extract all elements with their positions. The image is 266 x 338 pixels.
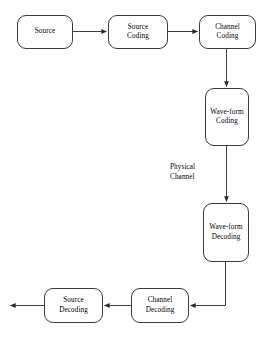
label-physical-channel: Physical Channel xyxy=(170,163,195,183)
node-waveform-decoding-line-2: Decoding xyxy=(212,233,241,242)
node-waveform-coding-line-2: Coding xyxy=(216,117,238,126)
node-source-line-1: Source xyxy=(35,27,56,36)
node-source-coding[interactable]: Source Coding xyxy=(108,15,168,49)
node-waveform-coding-line-1: Wave-form xyxy=(210,108,243,117)
node-channel-decoding-line-1: Channel xyxy=(148,296,173,305)
label-physical-channel-line-1: Physical xyxy=(170,163,195,173)
node-waveform-coding[interactable]: Wave-form Coding xyxy=(205,88,249,146)
node-waveform-decoding-line-1: Wave-form xyxy=(209,223,242,232)
node-channel-coding-line-2: Coding xyxy=(217,32,239,41)
connector-waveform-decoding-to-channel-decoding xyxy=(191,262,226,306)
node-source-decoding[interactable]: Source Decoding xyxy=(44,288,103,323)
connector-layer xyxy=(0,0,266,338)
label-physical-channel-line-2: Channel xyxy=(170,173,195,183)
node-channel-decoding[interactable]: Channel Decoding xyxy=(131,288,189,323)
node-source-coding-line-1: Source xyxy=(128,23,149,32)
node-source-coding-line-2: Coding xyxy=(127,32,149,41)
node-channel-coding-line-1: Channel xyxy=(215,23,240,32)
node-source[interactable]: Source xyxy=(17,15,73,49)
node-waveform-decoding[interactable]: Wave-form Decoding xyxy=(203,203,249,262)
node-channel-coding[interactable]: Channel Coding xyxy=(199,15,256,49)
node-channel-decoding-line-2: Decoding xyxy=(146,306,175,315)
node-source-decoding-line-2: Decoding xyxy=(59,306,88,315)
diagram-canvas: Source Source Coding Channel Coding Wave… xyxy=(0,0,266,338)
node-source-decoding-line-1: Source xyxy=(63,296,84,305)
